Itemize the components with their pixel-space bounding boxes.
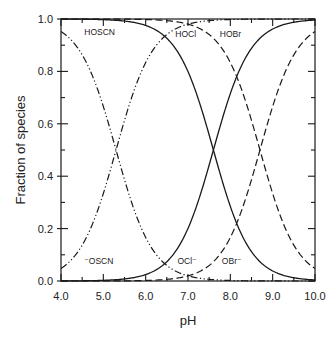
curves	[61, 19, 315, 281]
x-axis-title: pH	[180, 313, 197, 328]
curve-ocl-base	[61, 20, 315, 281]
y-tick-label: 0.6	[38, 118, 53, 130]
y-tick-label: 1.0	[38, 13, 53, 25]
species-labels: HOSCNHOClHOBr⁻OSCNOCl⁻OBr⁻	[84, 27, 241, 266]
curve-hoscn-acid	[61, 32, 315, 281]
y-axis-title: Fraction of species	[13, 95, 28, 205]
x-tick-label: 4.0	[53, 290, 68, 302]
species-label: HOCl	[175, 29, 196, 39]
x-tick-label: 8.0	[223, 290, 238, 302]
x-tick-label: 10.0	[304, 290, 325, 302]
species-label: OCl⁻	[177, 256, 196, 266]
species-label: HOBr	[220, 29, 241, 39]
species-label: OBr⁻	[222, 256, 242, 266]
y-tick-label: 0.2	[38, 223, 53, 235]
y-tick-label: 0.4	[38, 170, 53, 182]
curve-hocl-acid	[61, 19, 315, 280]
y-tick-label: 0.0	[38, 275, 53, 287]
x-tick-label: 5.0	[96, 290, 111, 302]
curve-hobr-acid	[61, 19, 315, 268]
species-fraction-chart: 4.05.06.07.08.09.010.00.00.20.40.60.81.0…	[0, 0, 336, 337]
curve-oscn-base	[61, 19, 315, 268]
x-tick-label: 6.0	[138, 290, 153, 302]
curve-obr-base	[61, 32, 315, 281]
x-tick-label: 7.0	[180, 290, 195, 302]
axes	[61, 19, 315, 281]
y-tick-label: 0.8	[38, 65, 53, 77]
species-label: ⁻OSCN	[84, 256, 113, 266]
species-label: HOSCN	[84, 27, 115, 37]
x-tick-label: 9.0	[265, 290, 280, 302]
plot-frame	[61, 19, 315, 281]
